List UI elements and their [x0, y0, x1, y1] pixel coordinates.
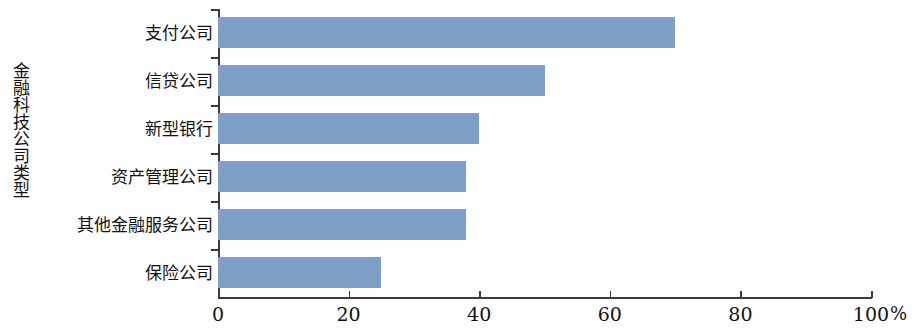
x-axis-line: [218, 297, 872, 299]
y-axis-tick: [211, 153, 219, 155]
bar: [218, 161, 466, 192]
category-label-1: 信贷公司: [0, 71, 217, 91]
bar: [218, 113, 479, 144]
x-axis-tick-label: 80: [728, 303, 752, 325]
x-axis-tick-label: 60: [598, 303, 622, 325]
category-label-3: 资产管理公司: [0, 167, 217, 187]
x-axis-tick-label: 40: [467, 303, 491, 325]
x-axis-tick: [740, 291, 742, 298]
y-axis-tick: [211, 105, 219, 107]
x-axis-tick: [218, 291, 220, 298]
bar: [218, 17, 675, 48]
x-axis-unit-label: %: [890, 303, 907, 325]
x-axis-tick: [871, 291, 873, 298]
category-label-2: 新型银行: [0, 119, 217, 139]
x-axis-tick: [349, 291, 351, 298]
x-axis-tick: [610, 291, 612, 298]
y-axis-tick: [211, 9, 219, 11]
category-label-0: 支付公司: [0, 23, 217, 43]
x-axis-tick: [479, 291, 481, 298]
x-axis-tick-label: 100: [853, 303, 889, 325]
x-axis-tick-label: 20: [337, 303, 361, 325]
x-axis-tick-label: 0: [212, 303, 224, 325]
y-axis-tick: [211, 249, 219, 251]
category-label-4: 其他金融服务公司: [0, 215, 217, 235]
bar-chart: 金融科技公司类型 支付公司 信贷公司 新型银行 资产管理公司 其他金融服务公司 …: [0, 0, 919, 329]
bar: [218, 209, 466, 240]
y-axis-tick: [211, 57, 219, 59]
category-label-5: 保险公司: [0, 263, 217, 283]
y-axis-tick: [211, 201, 219, 203]
bar: [218, 65, 545, 96]
bar: [218, 257, 381, 288]
